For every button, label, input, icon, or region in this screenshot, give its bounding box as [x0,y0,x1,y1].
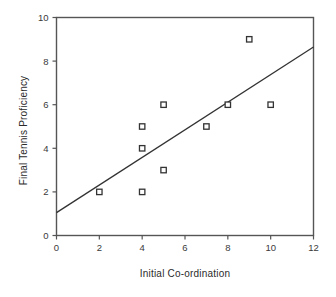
x-tick-label: 4 [140,242,145,253]
x-axis-ticks: 024681012 [54,236,319,253]
x-tick-label: 6 [182,242,187,253]
trendline-segment [57,47,314,213]
data-point-marker [247,37,252,42]
x-tick-label: 8 [225,242,230,253]
data-point-marker [161,167,166,172]
scatter-chart: 0246810 024681012 Final Tennis Proficien… [0,0,336,297]
y-tick-label: 4 [43,143,48,154]
data-point-marker [204,124,209,129]
plot-area-svg: 0246810 024681012 [0,0,336,297]
x-tick-label: 2 [97,242,102,253]
y-tick-label: 6 [43,99,48,110]
plot-frame [57,18,314,236]
x-tick-label: 10 [265,242,276,253]
trendline [57,47,314,213]
plot-frame-rect [57,18,314,236]
y-tick-label: 0 [43,230,48,241]
data-point-marker [97,189,102,194]
data-point-marker [139,124,144,129]
y-axis-title: Final Tennis Proficiency [18,46,29,216]
y-tick-label: 2 [43,186,48,197]
data-point-marker [225,102,230,107]
y-tick-label: 10 [38,12,49,23]
y-tick-label: 8 [43,56,48,67]
x-tick-label: 0 [54,242,59,253]
data-point-marker [268,102,273,107]
data-point-marker [139,189,144,194]
x-tick-label: 12 [308,242,319,253]
data-point-marker [161,102,166,107]
data-points [97,37,274,195]
x-axis-title: Initial Co-ordination [56,268,314,279]
data-point-marker [139,146,144,151]
y-axis-ticks: 0246810 [38,12,57,241]
